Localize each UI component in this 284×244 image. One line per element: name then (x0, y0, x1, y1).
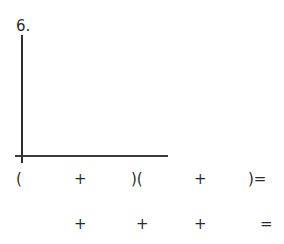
plus-sign: + (74, 217, 87, 232)
close-open-paren: )( (131, 172, 143, 187)
equals-sign: = (260, 217, 273, 232)
close-paren-equals: )= (248, 172, 266, 187)
plus-sign: + (136, 217, 149, 232)
y-axis (21, 35, 23, 163)
plus-sign: + (74, 172, 87, 187)
problem-number: 6. (16, 19, 30, 34)
open-paren: ( (16, 172, 22, 187)
plus-sign: + (194, 172, 207, 187)
x-axis (15, 155, 168, 157)
plus-sign: + (194, 217, 207, 232)
